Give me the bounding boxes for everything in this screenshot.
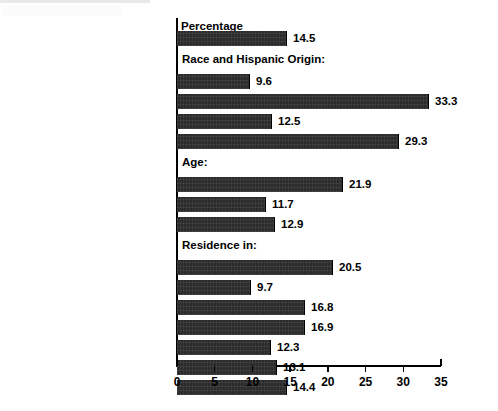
bar: [177, 114, 272, 129]
section-header: Age:: [182, 155, 208, 169]
bar: [177, 94, 429, 109]
bar: [177, 177, 343, 192]
x-tick-label: 30: [388, 375, 418, 389]
x-tick-mark: [214, 366, 216, 372]
bar: [177, 380, 287, 395]
bar-value-label: 20.5: [339, 260, 361, 275]
bar-value-label: 9.6: [256, 74, 272, 89]
x-tick-label: 25: [351, 375, 381, 389]
bar-value-label: 21.9: [349, 177, 371, 192]
bar-value-label: 12.3: [277, 340, 299, 355]
x-tick-mark: [176, 359, 178, 366]
x-tick-label: 5: [200, 375, 230, 389]
bar-value-label: 11.7: [272, 197, 294, 212]
bar-value-label: 12.5: [278, 114, 300, 129]
section-header: Residence in:: [182, 238, 257, 252]
x-tick-mark: [289, 366, 291, 372]
x-tick-label: 20: [313, 375, 343, 389]
bar: [177, 74, 250, 89]
bar: [177, 280, 251, 295]
bar-value-label: 33.3: [435, 94, 457, 109]
bar: [177, 320, 305, 335]
bar: [177, 300, 305, 315]
x-tick-mark: [365, 366, 367, 372]
bar: [177, 217, 275, 232]
bar-value-label: 16.9: [311, 320, 333, 335]
x-tick-label: 10: [237, 375, 267, 389]
x-tick-label: 15: [275, 375, 305, 389]
section-header: Race and Hispanic Origin:: [182, 52, 325, 66]
bar: [177, 260, 333, 275]
bar: [177, 134, 399, 149]
bar-value-label: 13.1: [283, 360, 305, 375]
bar: [177, 340, 271, 355]
x-tick-mark: [252, 366, 254, 372]
bar: [177, 360, 277, 375]
bar-value-label: 16.8: [311, 300, 333, 315]
x-tick-label: 35: [426, 375, 456, 389]
bar-value-label: 14.5: [293, 31, 315, 46]
x-tick-label: 0: [162, 375, 192, 389]
bar-value-label: 9.7: [257, 280, 273, 295]
bar: [177, 197, 266, 212]
x-tick-mark: [403, 366, 405, 372]
x-tick-mark: [327, 366, 329, 372]
horizontal-bar-chart: Percentage All Persons14.5Race and Hispa…: [0, 0, 498, 411]
x-tick-mark: [440, 359, 442, 366]
bar: [177, 31, 287, 46]
bar-value-label: 29.3: [405, 134, 427, 149]
bar-value-label: 12.9: [281, 217, 303, 232]
